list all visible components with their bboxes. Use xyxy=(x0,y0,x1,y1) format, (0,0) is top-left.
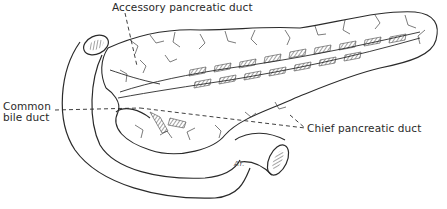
label-chief-pancreatic-duct: Chief pancreatic duct xyxy=(307,123,421,134)
duodenum xyxy=(62,31,293,198)
artist-signature: AY. xyxy=(234,160,244,168)
label-common-bile-duct: Common bile duct xyxy=(3,101,51,123)
label-common-line2: bile duct xyxy=(3,112,51,123)
label-accessory-pancreatic-duct: Accessory pancreatic duct xyxy=(112,2,253,13)
pancreas-diagram xyxy=(0,0,447,209)
duodenum-lumen-hatch xyxy=(87,38,286,171)
duct-lines xyxy=(110,32,420,98)
chief-duct-hatched-branches xyxy=(150,34,406,133)
